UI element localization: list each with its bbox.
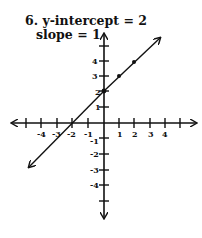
y-axis: 4 3 2 1 -1 -2 -3 -4 (90, 34, 109, 218)
y-tick-label: 4 (92, 56, 98, 66)
y-tick-label: -1 (90, 136, 99, 146)
x-tick-label: -4 (37, 129, 46, 139)
point-2-4 (132, 60, 136, 64)
x-tick-label: -3 (52, 129, 61, 139)
x-tick-label: 2 (132, 129, 138, 139)
y-tick-label: -4 (90, 180, 99, 190)
x-tick-label: 3 (148, 129, 154, 139)
y-tick-label: -2 (90, 149, 99, 159)
x-tick-label: -2 (67, 129, 76, 139)
y-tick-label: -3 (90, 165, 99, 175)
point-0-2 (102, 89, 107, 94)
y-tick-label: 3 (92, 71, 98, 81)
x-tick-label: 1 (117, 129, 123, 139)
point-1-3 (117, 74, 121, 78)
y-tick-label: 1 (95, 102, 101, 112)
worksheet-figure: 6. y-intercept = 2 slope = 1 (0, 0, 202, 238)
coordinate-plane: -4 -3 -2 -1 1 2 3 4 (0, 0, 202, 238)
x-tick-label: 4 (162, 129, 168, 139)
